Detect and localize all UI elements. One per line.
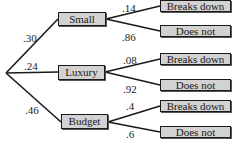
node-label: Small bbox=[69, 14, 95, 25]
edge-small-doesnot bbox=[106, 19, 160, 31]
node-label: Luxury bbox=[65, 67, 97, 78]
node-budget-doesnot: Does not bbox=[160, 126, 231, 138]
prob-budget-breaks: .4 bbox=[126, 101, 134, 112]
edge-root-luxury bbox=[6, 72, 58, 73]
node-small: Small bbox=[58, 12, 106, 26]
prob-budget-doesnot: .6 bbox=[126, 129, 134, 140]
prob-small-breaks: .14 bbox=[122, 3, 136, 14]
node-small-breaks: Breaks down bbox=[160, 0, 231, 12]
node-luxury-doesnot: Does not bbox=[160, 79, 231, 91]
node-luxury: Luxury bbox=[58, 65, 105, 80]
node-label: Does not bbox=[176, 80, 215, 91]
prob-luxury-doesnot: .92 bbox=[123, 84, 137, 95]
node-small-doesnot: Does not bbox=[160, 25, 231, 37]
node-budget-breaks: Breaks down bbox=[160, 100, 231, 112]
prob-luxury: .24 bbox=[24, 61, 38, 72]
node-luxury-breaks: Breaks down bbox=[160, 53, 231, 65]
node-label: Breaks down bbox=[167, 1, 225, 12]
node-label: Does not bbox=[176, 26, 215, 37]
node-label: Breaks down bbox=[167, 54, 225, 65]
node-label: Does not bbox=[176, 127, 215, 138]
node-budget: Budget bbox=[61, 114, 108, 129]
prob-luxury-breaks: .08 bbox=[123, 55, 137, 66]
prob-small-doesnot: .86 bbox=[122, 32, 136, 43]
node-label: Breaks down bbox=[167, 101, 225, 112]
node-label: Budget bbox=[69, 116, 101, 127]
tree-edges bbox=[0, 0, 233, 147]
prob-budget: .46 bbox=[25, 105, 39, 116]
prob-small: .30 bbox=[23, 33, 37, 44]
